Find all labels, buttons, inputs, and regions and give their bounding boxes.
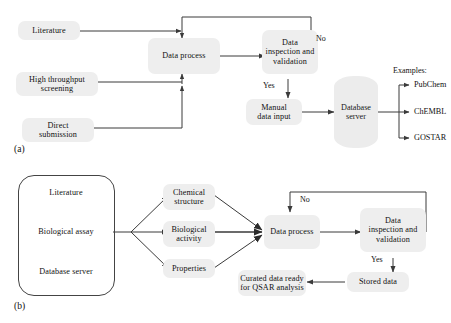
figure-container: Literature Data process Data inspection … (0, 0, 451, 323)
edge-databaseserver-to-examples (378, 85, 409, 138)
edge-label-yes-a: Yes (263, 82, 275, 91)
node-direct-submission-a[interactable]: Direct submission (22, 118, 94, 142)
panel-tag-a: (a) (14, 144, 25, 154)
node-data-inspection-and-validation-a[interactable]: Data inspection and validation (262, 30, 318, 74)
node-data-process-a[interactable]: Data process (148, 38, 220, 74)
node-high-throughput-screening-a[interactable]: High throughput screening (16, 72, 98, 96)
edge-label-no-a: No (316, 35, 326, 44)
node-database-server-a[interactable]: Database server (334, 76, 378, 148)
examples-item-chembl: ChEMBL (414, 107, 446, 116)
node-biological-assay-b[interactable]: Biological assay (22, 224, 110, 240)
edge-chemical-structure-to-dataprocess-b (214, 195, 262, 230)
node-stored-data-b[interactable]: Stored data (347, 272, 409, 292)
edge-properties-to-dataprocess-b (214, 235, 262, 268)
node-data-process-b[interactable]: Data process (264, 215, 320, 249)
node-data-inspection-and-validation-b[interactable]: Data inspection and validation (360, 208, 426, 252)
examples-title-a: Examples: (393, 67, 427, 76)
edge-label-no-b: No (300, 196, 310, 205)
node-literature-a[interactable]: Literature (18, 21, 80, 40)
node-manual-data-input-a[interactable]: Manual data input (246, 99, 302, 125)
node-properties-b[interactable]: Properties (163, 259, 215, 278)
node-biological-activity-b[interactable]: Biological activity (163, 221, 215, 247)
node-chemical-structure-b[interactable]: Chemical structure (163, 184, 215, 210)
node-database-server-b[interactable]: Database server (21, 264, 111, 280)
edge-hts-to-dataprocess (97, 74, 182, 84)
examples-item-gostar: GOSTAR (414, 133, 446, 142)
panel-tag-b: (b) (14, 301, 25, 311)
edge-label-yes-b: Yes (371, 256, 383, 265)
node-curated-data-b[interactable]: Curated data ready for QSAR analysis (238, 270, 306, 296)
examples-item-pubchem: PubChem (414, 80, 446, 89)
node-literature-b[interactable]: Literature (24, 185, 108, 201)
edge-directsubmission-to-dataprocess (94, 86, 182, 128)
